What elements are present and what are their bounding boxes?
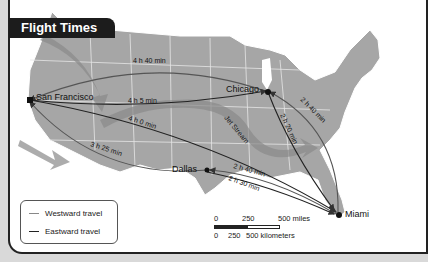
us-landmass [28, 12, 380, 218]
legend-eastward: Eastward travel [21, 222, 117, 240]
scale-bar: 0 250 500 miles 0 250 500 kilometers [214, 214, 310, 240]
legend-eastward-label: Eastward travel [45, 227, 100, 236]
legend: Westward travel Eastward travel [20, 200, 118, 244]
scale-bars [214, 225, 310, 229]
san-francisco-marker [27, 97, 33, 103]
legend-westward-label: Westward travel [45, 209, 102, 218]
label-sf-chi-east: 4 h 5 min [128, 97, 157, 104]
miami-marker [336, 212, 342, 218]
map-title: Flight Times [9, 18, 115, 38]
city-san-francisco: San Francisco [36, 92, 94, 102]
legend-westward: Westward travel [21, 204, 117, 222]
chicago-marker [265, 89, 271, 95]
eastward-swatch [29, 231, 39, 232]
westward-swatch [29, 213, 39, 214]
dallas-marker [205, 168, 210, 173]
city-chicago: Chicago [226, 84, 259, 94]
scale-km: 0 250 500 kilometers [214, 231, 310, 240]
scale-miles: 0 250 500 miles [214, 214, 310, 223]
city-dallas: Dallas [172, 164, 197, 174]
label-sf-chi-west: 4 h 40 min [133, 57, 166, 64]
city-miami: Miami [345, 209, 369, 219]
label-dal-mia-east: 2 h 30 min [228, 174, 261, 192]
